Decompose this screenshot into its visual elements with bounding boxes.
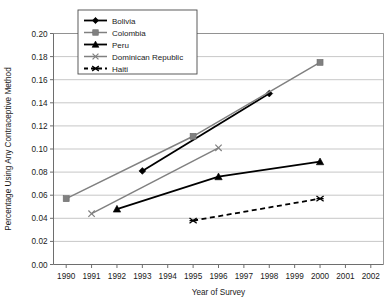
y-axis-title: Percentage Using Any Contraceptive Metho… [4, 67, 13, 231]
x-tick-label: 1998 [260, 272, 279, 281]
series-line [193, 199, 320, 221]
series-peru [113, 158, 323, 212]
x-tick-label: 1990 [57, 272, 76, 281]
legend-label: Colombia [112, 29, 146, 38]
legend-label: Dominican Republic [112, 53, 183, 62]
y-axis-ticks [50, 34, 54, 265]
y-tick-label: 0.14 [32, 99, 48, 108]
chart-legend: BoliviaColombiaPeruDominican RepublicHai… [78, 10, 197, 74]
x-tick-label: 2001 [336, 272, 355, 281]
y-tick-label: 0.18 [32, 53, 48, 62]
x-tick-label: 1993 [133, 272, 152, 281]
data-point [215, 145, 221, 151]
series-line [92, 148, 219, 214]
legend-label: Haiti [112, 65, 128, 74]
data-point [190, 218, 197, 223]
y-tick-label: 0.00 [32, 261, 48, 270]
y-tick-label: 0.08 [32, 168, 48, 177]
y-tick-label: 0.10 [32, 145, 48, 154]
series-haiti [190, 196, 324, 223]
y-tick-label: 0.16 [32, 76, 48, 85]
y-tick-label: 0.12 [32, 122, 48, 131]
x-tick-label: 1991 [82, 272, 101, 281]
x-axis-title: Year of Survey [192, 288, 246, 297]
y-tick-label: 0.02 [32, 237, 48, 246]
x-tick-label: 1994 [159, 272, 178, 281]
x-tick-label: 1996 [209, 272, 228, 281]
chart-canvas: 0.000.020.040.060.080.100.120.140.160.18… [0, 0, 392, 301]
y-tick-label: 0.20 [32, 30, 48, 39]
series-line [142, 94, 269, 171]
data-point [88, 210, 94, 216]
series-colombia [63, 59, 323, 201]
legend-label: Bolivia [112, 17, 136, 26]
x-tick-label: 1992 [108, 272, 127, 281]
y-tick-label: 0.06 [32, 191, 48, 200]
series-line [66, 62, 320, 198]
y-tick-label: 0.04 [32, 214, 48, 223]
x-tick-label: 1997 [235, 272, 254, 281]
x-tick-label: 2000 [311, 272, 330, 281]
data-point [316, 196, 323, 201]
x-tick-label: 2002 [362, 272, 381, 281]
x-tick-label: 1999 [286, 272, 305, 281]
contraceptive-use-line-chart: 0.000.020.040.060.080.100.120.140.160.18… [0, 0, 392, 301]
data-series-group [63, 59, 324, 223]
data-point [190, 133, 196, 139]
x-tick-label: 1995 [184, 272, 203, 281]
legend-marker-sample [93, 30, 99, 36]
data-point [317, 59, 323, 65]
data-point [63, 196, 69, 202]
legend-label: Peru [112, 41, 129, 50]
x-axis-ticks [66, 265, 371, 269]
